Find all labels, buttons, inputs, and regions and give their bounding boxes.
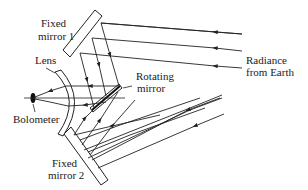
label-fixed-mirror-2-a: Fixed xyxy=(52,157,78,169)
label-rotating-mirror-b: mirror xyxy=(137,82,165,94)
incoming-rays-lower xyxy=(84,95,224,168)
lens xyxy=(55,70,75,136)
label-radiance-a: Radiance xyxy=(246,54,287,66)
label-bolometer: Bolometer xyxy=(13,113,60,125)
label-lens: Lens xyxy=(35,54,56,66)
rotating-mirror-leader xyxy=(123,86,132,88)
lens-leader xyxy=(46,68,55,73)
rays-mirror2-to-rotating xyxy=(74,92,205,155)
bolometer-leader xyxy=(33,104,35,112)
rays-lens-to-bolometer xyxy=(35,86,68,106)
radiometer-optics-diagram: Fixed mirror 1 Lens Rotating mirror Radi… xyxy=(0,0,308,190)
label-fixed-mirror-2-b: mirror 2 xyxy=(48,169,84,181)
label-fixed-mirror-1-a: Fixed xyxy=(41,17,67,29)
label-rotating-mirror-a: Rotating xyxy=(136,70,174,82)
incoming-rays-upper xyxy=(80,23,242,68)
label-fixed-mirror-1-b: mirror 1 xyxy=(38,30,74,42)
label-radiance-b: from Earth xyxy=(246,66,294,78)
